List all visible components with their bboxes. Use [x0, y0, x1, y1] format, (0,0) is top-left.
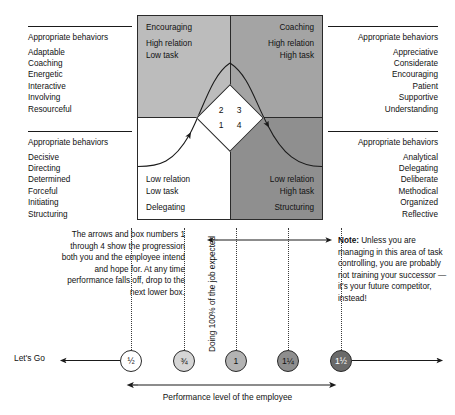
axis-lines-overlay [0, 0, 455, 415]
diagram-canvas: Appropriate behaviors Adaptable Coaching… [0, 0, 455, 415]
